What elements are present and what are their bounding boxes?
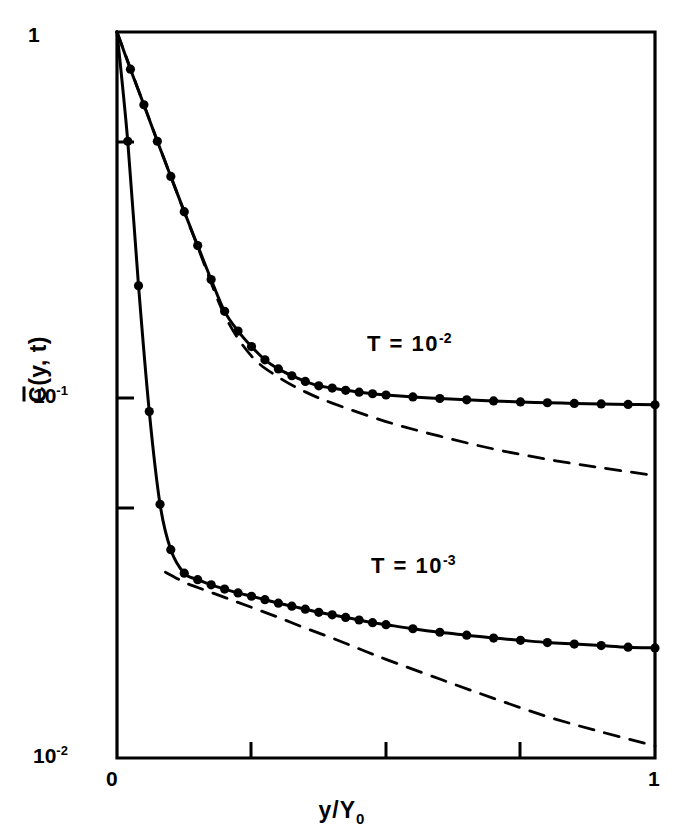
data-point-marker [355, 388, 364, 397]
data-point-marker [260, 355, 269, 364]
data-point-marker [462, 395, 471, 404]
data-point-marker [543, 398, 552, 407]
data-point-marker [301, 377, 310, 386]
data-point-marker [134, 281, 143, 290]
data-point-marker [247, 592, 256, 601]
x-tick-label-1: 1 [648, 768, 660, 789]
data-point-marker [381, 620, 390, 629]
x-axis-title: y/Y0 [0, 797, 684, 824]
annotation-lower-curve: T = 10-3 [371, 553, 455, 579]
data-point-marker [301, 605, 310, 614]
data-point-marker [220, 584, 229, 593]
data-point-marker [368, 618, 377, 627]
chart-plot [0, 0, 684, 833]
series-line-dashed-3 [165, 572, 655, 746]
data-point-marker [408, 392, 417, 401]
y-axis-title: C(y, t) [25, 290, 52, 450]
series-line-dashed-1 [117, 32, 655, 476]
data-point-marker [314, 381, 323, 390]
series-1 [117, 32, 655, 476]
data-point-marker [543, 638, 552, 647]
data-point-marker [597, 641, 606, 650]
data-point-marker [193, 241, 202, 250]
data-point-marker [570, 639, 579, 648]
data-point-marker [489, 396, 498, 405]
data-point-marker [287, 602, 296, 611]
data-point-marker [314, 608, 323, 617]
y-tick-label-1e-2: 10-2 [33, 745, 68, 766]
data-curves-layer [117, 32, 660, 746]
data-point-marker [193, 575, 202, 584]
data-point-marker [435, 628, 444, 637]
data-point-marker [274, 364, 283, 373]
data-point-marker [624, 400, 633, 409]
data-point-marker [166, 545, 175, 554]
data-point-marker [381, 390, 390, 399]
data-point-marker [247, 342, 256, 351]
data-point-marker [274, 599, 283, 608]
y-axis-title-args: (y, t) [25, 336, 51, 386]
data-point-marker [207, 580, 216, 589]
data-point-marker [650, 643, 659, 652]
data-point-marker [180, 569, 189, 578]
y-axis-title-overbar-symbol: C [25, 386, 52, 403]
data-point-marker [287, 371, 296, 380]
data-point-marker [435, 394, 444, 403]
data-point-marker [462, 631, 471, 640]
y-tick-label-1: 1 [28, 24, 40, 45]
data-point-marker [516, 397, 525, 406]
data-point-marker [489, 633, 498, 642]
data-point-marker [328, 383, 337, 392]
data-point-marker [341, 386, 350, 395]
series-3 [165, 572, 655, 746]
data-point-marker [570, 399, 579, 408]
data-point-marker [233, 588, 242, 597]
data-point-marker [260, 595, 269, 604]
data-point-marker [123, 137, 132, 146]
data-point-marker [328, 610, 337, 619]
data-point-marker [368, 389, 377, 398]
data-point-marker [341, 613, 350, 622]
data-point-marker [516, 636, 525, 645]
data-point-marker [597, 399, 606, 408]
data-point-marker [155, 500, 164, 509]
annotation-upper-curve: T = 10-2 [367, 331, 451, 357]
data-point-marker [650, 400, 659, 409]
data-point-marker [408, 624, 417, 633]
data-point-marker [624, 643, 633, 652]
figure-container: 1 10-1 10-2 0 1 y/Y0 C(y, t) T = 10-2 T … [0, 0, 684, 833]
x-axis-ticks [251, 742, 520, 758]
data-point-marker [355, 615, 364, 624]
x-tick-label-0: 0 [106, 768, 118, 789]
data-point-marker [145, 407, 154, 416]
